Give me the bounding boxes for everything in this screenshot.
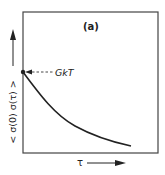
panel-label: (a) bbox=[83, 21, 99, 32]
plot-frame bbox=[23, 12, 158, 153]
y-axis-arrowhead-icon bbox=[10, 29, 16, 40]
chart-figure: (a) GkT τ < σ(0) σ(τ) > bbox=[0, 0, 165, 175]
annotation-arrowhead-icon bbox=[25, 70, 32, 75]
annotation-label: GkT bbox=[55, 67, 75, 78]
start-point-marker bbox=[21, 70, 25, 74]
decay-curve bbox=[23, 72, 131, 146]
x-axis-label: τ bbox=[77, 157, 83, 168]
x-axis-arrowhead-icon bbox=[115, 160, 126, 166]
y-axis-label: < σ(0) σ(τ) > bbox=[7, 80, 18, 144]
